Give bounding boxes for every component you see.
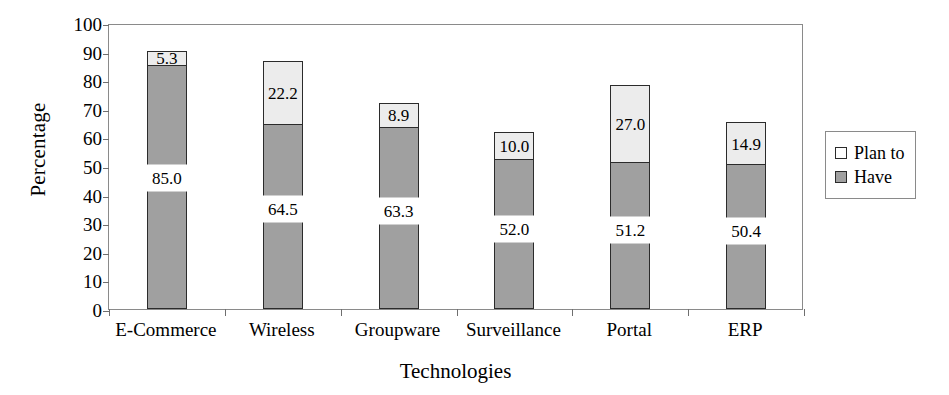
bar-segment-plan-to[interactable]: 5.3 [147,51,187,66]
bar-value-label-have: 50.4 [726,218,767,245]
y-axis-tick-label: 70 [58,100,102,119]
legend-swatch-icon [835,147,847,159]
bar-erp[interactable]: 14.950.4 [726,122,766,309]
x-axis-category-label: Surveillance [466,320,561,339]
y-axis-tick-label: 40 [58,186,102,205]
bar-portal[interactable]: 27.051.2 [610,85,650,309]
x-axis-category-label: Groupware [355,320,440,339]
bar-value-label-have: 51.2 [610,216,651,243]
bar-segment-have[interactable]: 64.5 [263,125,303,309]
bar-groupware[interactable]: 8.963.3 [379,103,419,309]
y-axis-tick-label: 20 [58,243,102,262]
y-axis-tick-label: 30 [58,215,102,234]
y-axis-tick-mark [103,25,109,26]
bar-value-label-plan-to: 10.0 [500,137,530,154]
y-axis-tick-label: 90 [58,43,102,62]
y-axis-tick-mark [103,54,109,55]
legend-swatch-icon [835,171,847,183]
bar-segment-have[interactable]: 52.0 [494,160,534,309]
bar-segment-have[interactable]: 50.4 [726,165,766,309]
bar-value-label-have: 64.5 [262,196,303,223]
bar-segment-have[interactable]: 51.2 [610,163,650,309]
legend-item-label: Have [854,168,892,186]
bar-value-label-plan-to: 5.3 [156,50,177,67]
bar-value-label-have: 52.0 [494,215,535,242]
x-axis-tick-mark [804,309,805,316]
legend-item-have[interactable]: Have [835,165,905,189]
y-axis-tick-label: 100 [58,15,102,34]
chart-legend: Plan toHave [825,131,916,199]
y-axis-tick-label: 80 [58,72,102,91]
x-axis-tick-mark [572,309,573,316]
x-axis-category-label: E-Commerce [115,320,216,339]
y-axis-tick-label: 50 [58,158,102,177]
bar-value-label-plan-to: 14.9 [731,135,761,152]
stacked-bar-chart: Percentage 0102030405060708090100 5.385.… [0,0,949,395]
x-axis-tick-mark [341,309,342,316]
bar-value-label-plan-to: 22.2 [268,84,298,101]
y-axis-tick-mark [103,197,109,198]
x-axis-category-label: Wireless [249,320,315,339]
bar-surveillance[interactable]: 10.052.0 [494,132,534,309]
y-axis-tick-mark [103,254,109,255]
y-axis-tick-label: 0 [58,301,102,320]
y-axis-tick-labels: 0102030405060708090100 [50,0,102,395]
y-axis-tick-label: 10 [58,272,102,291]
bar-wireless[interactable]: 22.264.5 [263,61,303,309]
x-axis-category-label: Portal [607,320,652,339]
bar-segment-have[interactable]: 63.3 [379,128,419,309]
bar-segment-plan-to[interactable]: 14.9 [726,122,766,165]
bar-value-label-have: 85.0 [146,164,187,191]
y-axis-tick-mark [103,139,109,140]
bar-segment-plan-to[interactable]: 27.0 [610,85,650,162]
plot-inner: 5.385.022.264.58.963.310.052.027.051.214… [109,25,802,309]
bar-value-label-plan-to: 8.9 [388,107,409,124]
bar-value-label-plan-to: 27.0 [615,115,645,132]
bar-segment-plan-to[interactable]: 22.2 [263,61,303,124]
plot-area: 5.385.022.264.58.963.310.052.027.051.214… [108,24,803,310]
legend-item-label: Plan to [854,144,905,162]
bar-value-label-have: 63.3 [378,198,419,225]
x-axis-tick-mark [688,309,689,316]
y-axis-tick-mark [103,82,109,83]
legend-item-plan[interactable]: Plan to [835,141,905,165]
x-axis-title: Technologies [108,361,803,382]
bar-segment-have[interactable]: 85.0 [147,66,187,309]
y-axis-title: Percentage [26,50,51,250]
bar-segment-plan-to[interactable]: 8.9 [379,103,419,128]
y-axis-tick-label: 60 [58,129,102,148]
y-axis-tick-mark [103,111,109,112]
y-axis-tick-mark [103,168,109,169]
bar-segment-plan-to[interactable]: 10.0 [494,132,534,161]
x-axis-tick-mark [457,309,458,316]
x-axis-category-label: ERP [728,320,763,339]
bar-e-commerce[interactable]: 5.385.0 [147,51,187,309]
y-axis-tick-mark [103,282,109,283]
y-axis-tick-mark [103,225,109,226]
x-axis-tick-mark [225,309,226,316]
x-axis-tick-mark [109,309,110,316]
